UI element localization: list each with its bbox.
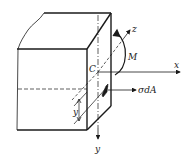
z-axis-arrow — [124, 30, 130, 38]
label-centroid-C: C — [89, 64, 96, 74]
label-sigma-dA: σdA — [138, 85, 157, 95]
diagram-svg: C x y z M σdA y — [0, 0, 189, 157]
bottom-diagonal-edge — [87, 106, 111, 130]
moment-arrow — [113, 30, 125, 75]
section-lines — [72, 15, 180, 139]
label-moment-M: M — [127, 52, 138, 62]
area-element-dA — [102, 84, 136, 97]
top-diagonal-edge — [87, 13, 111, 49]
label-y-axis: y — [94, 144, 101, 154]
beam-bending-diagram: C x y z M σdA y — [0, 0, 189, 157]
label-distance-y: y — [72, 107, 79, 117]
label-z-axis: z — [131, 24, 137, 34]
left-edge — [17, 49, 18, 130]
label-x-axis: x — [174, 60, 179, 70]
wavy-cut-edge — [18, 13, 44, 49]
beam-body — [17, 13, 111, 130]
